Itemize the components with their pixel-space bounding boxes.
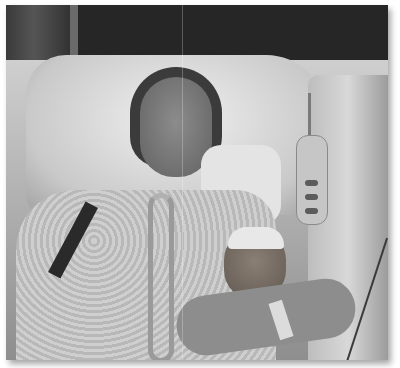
- remote-button: [305, 208, 318, 214]
- teddy-bear-hat: [228, 227, 284, 249]
- breathing-tube: [148, 193, 174, 360]
- remote-cord: [308, 93, 311, 137]
- scan-seam: [182, 5, 183, 360]
- hospital-photo: [6, 5, 388, 360]
- remote-button: [305, 180, 318, 186]
- remote-button: [305, 194, 318, 200]
- bed-remote-control: [296, 135, 328, 225]
